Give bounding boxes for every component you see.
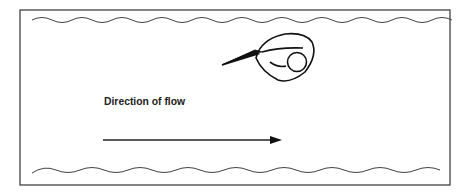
diagram-frame [20,10,450,185]
diagram-canvas [0,0,469,194]
flow-diagram: Direction of flow [0,0,469,194]
top-wavy-line [32,18,452,23]
direction-of-flow-label: Direction of flow [104,95,185,107]
organism-icon [222,34,314,81]
bottom-wavy-line [32,168,440,174]
flow-arrow-icon [103,136,282,144]
